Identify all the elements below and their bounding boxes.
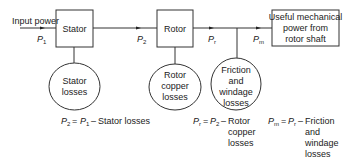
stator-losses-line1: Stator xyxy=(62,76,86,86)
svg-text:2: 2 xyxy=(216,121,220,127)
arrow-p2-icon xyxy=(136,27,141,30)
friction-line2: and xyxy=(228,76,243,86)
svg-text:2: 2 xyxy=(143,39,147,45)
svg-text:m: m xyxy=(274,121,279,127)
svg-text:1: 1 xyxy=(43,39,47,45)
svg-text:=: = xyxy=(203,116,208,126)
friction-line1: Friction xyxy=(221,65,251,75)
stator-label: Stator xyxy=(62,24,86,34)
equation-pm: P m = P r – Friction and windage losses xyxy=(268,116,339,159)
output-label-line1: Useful mechanical xyxy=(269,12,343,22)
signal-pm: P m xyxy=(253,34,264,45)
svg-text:–: – xyxy=(298,116,303,126)
rotor-copper-line2: copper xyxy=(161,81,189,91)
svg-text:–: – xyxy=(221,116,226,126)
svg-text:r: r xyxy=(294,121,296,127)
svg-text:losses: losses xyxy=(228,138,254,148)
output-label-line2: power from xyxy=(283,23,328,33)
svg-text:m: m xyxy=(259,39,264,45)
equation-pr: P r = P 2 – Rotor copper losses xyxy=(193,116,256,148)
svg-text:r: r xyxy=(199,121,201,127)
svg-text:=: = xyxy=(281,116,286,126)
rotor-label: Rotor xyxy=(164,24,186,34)
power-flow-diagram: Stator Rotor Useful mechanical power fro… xyxy=(0,0,352,163)
friction-line4: losses xyxy=(223,98,249,108)
arrow-pr-icon xyxy=(209,27,214,30)
friction-line3: windage xyxy=(218,87,253,97)
svg-text:Rotor: Rotor xyxy=(228,116,250,126)
rotor-copper-line3: losses xyxy=(162,92,188,102)
output-label-line3: rotor shaft xyxy=(285,34,326,44)
arrow-pm-icon xyxy=(256,27,261,30)
signal-pr: P r xyxy=(208,34,216,45)
svg-text:r: r xyxy=(214,39,216,45)
svg-text:windage: windage xyxy=(304,138,339,148)
svg-text:losses: losses xyxy=(305,149,331,159)
svg-text:–: – xyxy=(91,116,96,126)
svg-text:1: 1 xyxy=(86,121,90,127)
stator-losses-line2: losses xyxy=(62,87,88,97)
svg-text:Friction: Friction xyxy=(305,116,335,126)
equation-p2: P 2 = P 1 – Stator losses xyxy=(61,116,151,127)
input-power-label: Input power xyxy=(12,16,59,26)
svg-text:copper: copper xyxy=(228,127,256,137)
svg-text:and: and xyxy=(305,127,320,137)
signal-p2: P 2 xyxy=(137,34,147,45)
arrow-p1-icon xyxy=(40,27,45,30)
signal-p1: P 1 xyxy=(37,34,47,45)
svg-text:2: 2 xyxy=(67,121,71,127)
svg-text:Stator losses: Stator losses xyxy=(98,116,151,126)
svg-text:=: = xyxy=(72,116,77,126)
rotor-copper-line1: Rotor xyxy=(164,70,186,80)
